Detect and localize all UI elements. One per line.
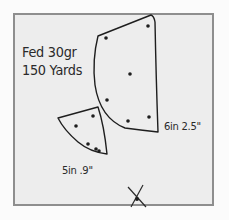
group-2-size-label: 5in .9" [62,165,93,176]
group-1-size-label: 6in 2.5" [164,121,201,132]
group-1-hits [104,24,151,123]
group-2-outline [58,107,107,154]
group-1-outline [94,15,158,132]
target-drawing [0,0,229,220]
group-2-hits [74,114,101,153]
load-annotation: Fed 30gr [22,44,77,60]
distance-annotation: 150 Yards [22,62,82,78]
aim-point-x-icon [128,185,146,207]
